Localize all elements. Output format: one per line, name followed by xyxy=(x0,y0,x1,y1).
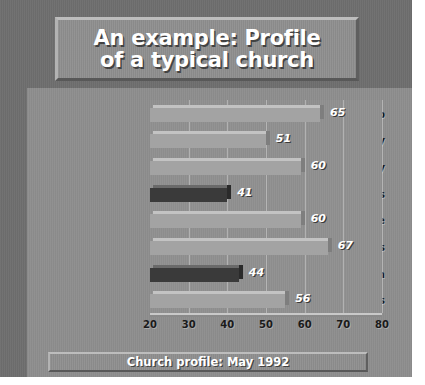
bar-end-cap xyxy=(320,105,324,119)
bar-top-highlight xyxy=(153,265,243,268)
tick-label: 80 xyxy=(375,319,389,330)
bar-top-highlight xyxy=(153,238,332,241)
title-plaque: An example: Profile of a typical church xyxy=(55,17,359,81)
bar-end-cap xyxy=(266,131,270,145)
gridline xyxy=(305,100,306,313)
footer-caption: Church profile: May 1992 xyxy=(127,355,290,369)
bar-face xyxy=(150,188,227,202)
bar-end-cap xyxy=(328,238,332,252)
bar-value-label: 41 xyxy=(237,186,252,199)
bar-face xyxy=(150,214,301,228)
bar xyxy=(150,211,305,228)
tick-label: 60 xyxy=(298,319,312,330)
bar-value-label: 67 xyxy=(338,239,353,252)
bar-end-cap xyxy=(301,158,305,172)
plot-area xyxy=(150,100,382,313)
bar-value-label: 51 xyxy=(276,132,291,145)
bar xyxy=(150,238,332,255)
bar-end-cap xyxy=(285,291,289,305)
bar-top-highlight xyxy=(153,185,231,188)
bar-top-highlight xyxy=(153,131,270,134)
page-title: An example: Profile of a typical church xyxy=(94,27,321,72)
bar-face xyxy=(150,161,301,175)
bar-value-label: 65 xyxy=(330,106,345,119)
bar-value-label: 60 xyxy=(311,159,326,172)
bar-face xyxy=(150,294,285,308)
chart-panel: LeadershipMinistrySpiritualityStructures… xyxy=(35,96,385,344)
bar xyxy=(150,265,243,282)
bar-top-highlight xyxy=(153,291,289,294)
gridline xyxy=(343,100,344,313)
bar-top-highlight xyxy=(153,158,305,161)
left-decorative-band xyxy=(0,88,27,377)
bar-face xyxy=(150,108,320,122)
slide: An example: Profile of a typical church … xyxy=(0,0,412,377)
gridline xyxy=(382,100,383,313)
value-axis-line xyxy=(150,313,382,317)
tick-label: 20 xyxy=(143,319,157,330)
bar-top-highlight xyxy=(153,105,324,108)
bar xyxy=(150,131,270,148)
bar-end-cap xyxy=(301,211,305,225)
bar-value-label: 44 xyxy=(249,266,264,279)
bar-face xyxy=(150,134,266,148)
bar-value-label: 56 xyxy=(295,292,310,305)
bar xyxy=(150,291,289,308)
bar-top-highlight xyxy=(153,211,305,214)
bar-face xyxy=(150,241,328,255)
bar xyxy=(150,105,324,122)
tick-label: 50 xyxy=(259,319,273,330)
bar xyxy=(150,158,305,175)
bar-value-label: 60 xyxy=(311,212,326,225)
tick-label: 40 xyxy=(220,319,234,330)
tick-label: 70 xyxy=(336,319,350,330)
bar-face xyxy=(150,268,239,282)
bar-end-cap xyxy=(239,265,243,279)
tick-label: 30 xyxy=(182,319,196,330)
bar-end-cap xyxy=(227,185,231,199)
bar xyxy=(150,185,231,202)
footer-plaque: Church profile: May 1992 xyxy=(48,352,368,372)
